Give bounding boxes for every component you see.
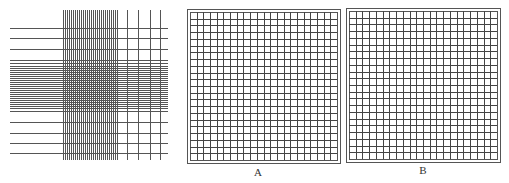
uniform-grid-panel-b — [347, 9, 501, 163]
uniform-grid-panel-a — [188, 10, 341, 164]
panel-a-label: A — [254, 166, 262, 178]
grid-comparison-figure — [0, 0, 509, 183]
uneven-grid-panel — [10, 10, 168, 160]
panel-b-label: B — [419, 164, 426, 176]
